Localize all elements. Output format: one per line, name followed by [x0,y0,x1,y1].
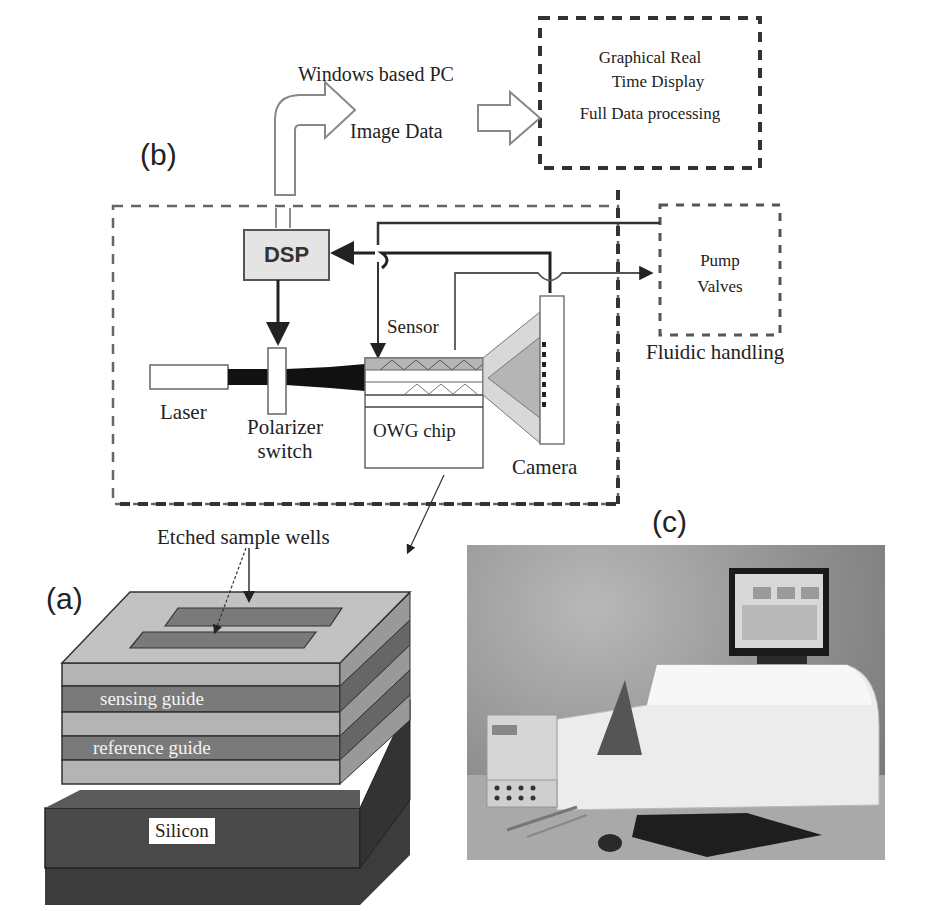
panel-label-c: (c) [652,505,687,539]
polarizer-line-2: switch [230,439,340,463]
instrument-photo [467,545,885,860]
panel-label-a: (a) [46,582,83,616]
valves-label: Valves [660,274,780,300]
image-data-label: Image Data [350,120,443,143]
silicon-label: Silicon [149,818,215,844]
display-line-1: Graphical Real [540,46,760,70]
display-box: Graphical Real Time Display Full Data pr… [540,46,760,126]
polarizer-line-1: Polarizer [230,415,340,439]
pump-valves-box: Pump Valves [660,248,780,300]
sensor-label: Sensor [387,316,439,338]
pump-label: Pump [660,248,780,274]
display-line-2: Time Display [540,70,760,94]
pc-title: Windows based PC [298,63,454,86]
dsp-block: DSP [244,242,329,268]
camera-label: Camera [512,455,577,480]
reference-guide-label: reference guide [93,737,211,759]
fluidic-handling-label: Fluidic handling [646,340,784,365]
display-line-3: Full Data processing [540,102,760,126]
panel-label-b: (b) [140,138,177,172]
sensing-guide-label: sensing guide [100,688,204,710]
owg-chip-label: OWG chip [373,420,456,442]
instrument-illustration [467,545,885,860]
polarizer-label: Polarizer switch [230,415,340,463]
etched-wells-label: Etched sample wells [157,525,330,550]
laser-label: Laser [160,400,207,425]
